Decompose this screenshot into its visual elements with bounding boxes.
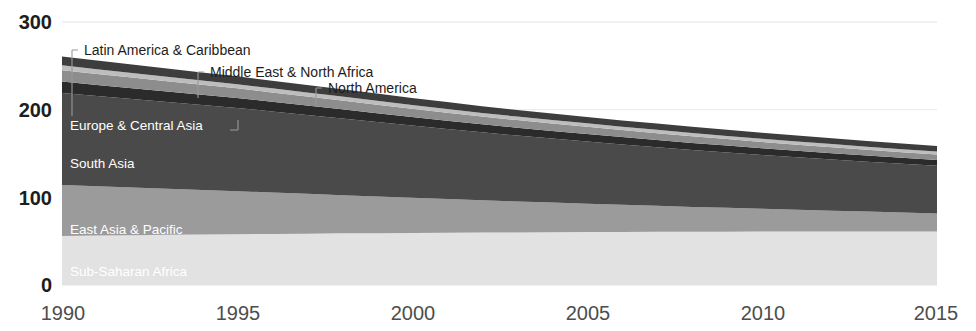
x-tick-2000: 2000 bbox=[391, 302, 436, 324]
series-label-sub-saharan-africa: Sub-Saharan Africa bbox=[70, 264, 188, 279]
x-tick-2010: 2010 bbox=[741, 302, 786, 324]
x-axis-ticks: 1990 1995 2000 2005 2010 2015 bbox=[41, 302, 959, 324]
series-label-middle-east: Middle East & North Africa bbox=[210, 64, 374, 80]
series-label-latin-america: Latin America & Caribbean bbox=[84, 42, 251, 58]
chart-container: 300 200 100 0 1990 1995 2000 2005 2010 2… bbox=[0, 0, 976, 331]
series-label-north-america: North America bbox=[328, 80, 417, 96]
x-tick-1990: 1990 bbox=[41, 302, 86, 324]
stacked-area-chart: 300 200 100 0 1990 1995 2000 2005 2010 2… bbox=[0, 0, 976, 331]
x-tick-1995: 1995 bbox=[216, 302, 261, 324]
series-label-east-asia-pacific: East Asia & Pacific bbox=[70, 222, 183, 237]
y-tick-200: 200 bbox=[19, 99, 52, 121]
y-axis-ticks: 300 200 100 0 bbox=[19, 11, 52, 296]
y-tick-0: 0 bbox=[41, 274, 52, 296]
y-tick-300: 300 bbox=[19, 11, 52, 33]
series-label-south-asia: South Asia bbox=[70, 156, 135, 171]
series-label-europe-central-asia: Europe & Central Asia bbox=[70, 118, 203, 133]
y-tick-100: 100 bbox=[19, 187, 52, 209]
area-series-group bbox=[62, 57, 937, 285]
x-tick-2005: 2005 bbox=[566, 302, 611, 324]
x-tick-2015: 2015 bbox=[914, 302, 959, 324]
area-sub-saharan-africa bbox=[62, 232, 937, 285]
